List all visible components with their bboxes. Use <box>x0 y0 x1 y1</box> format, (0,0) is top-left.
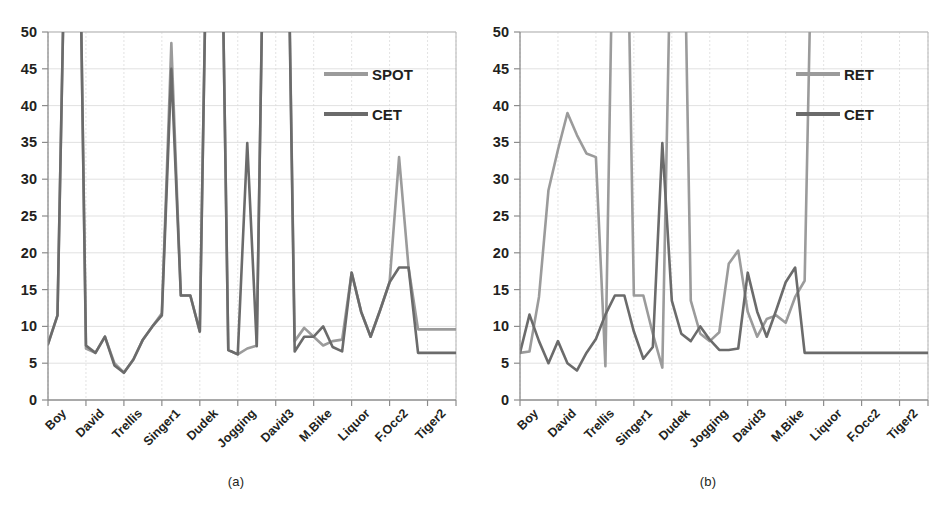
figure-two-panel-line-charts: 05101520253035404550BoyDavidTrellisSinge… <box>0 0 944 521</box>
x-axis-category-label: David <box>545 406 579 440</box>
plot-area-a: 05101520253035404550BoyDavidTrellisSinge… <box>0 0 472 521</box>
y-axis-tick-label: 35 <box>21 134 37 150</box>
y-axis-tick-label: 40 <box>493 98 509 114</box>
x-axis-category-label: M.Bike <box>768 406 806 444</box>
line-chart-b: 05101520253035404550BoyDavidTrellisSinge… <box>472 0 944 470</box>
plot-area-b: 05101520253035404550BoyDavidTrellisSinge… <box>472 0 944 521</box>
y-axis-tick-label: 25 <box>493 208 509 224</box>
y-axis-tick-label: 45 <box>21 61 37 77</box>
x-axis-category-label: Boy <box>514 406 541 433</box>
y-axis-tick-label: 45 <box>493 61 509 77</box>
y-axis-tick-label: 0 <box>29 392 37 408</box>
y-axis-tick-label: 50 <box>21 24 37 40</box>
x-axis-category-label: Dudek <box>184 406 221 443</box>
x-axis-category-label: Dudek <box>656 406 693 443</box>
x-axis-category-label: Liquor <box>807 406 844 443</box>
x-axis-category-label: Jogging <box>687 406 731 450</box>
panel-b: 05101520253035404550BoyDavidTrellisSinge… <box>472 0 944 521</box>
y-axis-tick-label: 10 <box>493 318 509 334</box>
x-axis-category-label: Tiger2 <box>412 406 448 442</box>
caption-b: (b) <box>472 474 944 489</box>
y-axis-tick-label: 25 <box>21 208 37 224</box>
legend-label-ret: RET <box>844 66 874 83</box>
x-axis-category-label: Singer1 <box>141 406 183 448</box>
x-axis-category-label: F.Occ2 <box>372 406 410 444</box>
y-axis-tick-label: 35 <box>493 134 509 150</box>
x-axis-category-label: Singer1 <box>613 406 655 448</box>
y-axis-tick-label: 50 <box>493 24 509 40</box>
x-axis-category-label: Trellis <box>110 406 145 441</box>
caption-a: (a) <box>0 474 472 489</box>
x-axis-category-label: David <box>73 406 107 440</box>
x-axis-category-label: David3 <box>258 406 297 445</box>
legend-label-spot: SPOT <box>372 66 413 83</box>
x-axis-category-label: David3 <box>730 406 769 445</box>
x-axis-category-label: Boy <box>42 406 69 433</box>
y-axis-tick-label: 15 <box>493 282 509 298</box>
y-axis-tick-label: 40 <box>21 98 37 114</box>
y-axis-tick-label: 30 <box>493 171 509 187</box>
legend-label-cet: CET <box>372 106 402 123</box>
y-axis-tick-label: 10 <box>21 318 37 334</box>
x-axis-category-label: Liquor <box>335 406 372 443</box>
y-axis-tick-label: 30 <box>21 171 37 187</box>
y-axis-tick-label: 5 <box>29 355 37 371</box>
legend-label-cet: CET <box>844 106 874 123</box>
x-axis-category-label: F.Occ2 <box>844 406 882 444</box>
x-axis-category-label: Tiger2 <box>884 406 920 442</box>
y-axis-tick-label: 0 <box>501 392 509 408</box>
y-axis-tick-label: 20 <box>21 245 37 261</box>
y-axis-tick-label: 15 <box>21 282 37 298</box>
y-axis-tick-label: 20 <box>493 245 509 261</box>
panel-a: 05101520253035404550BoyDavidTrellisSinge… <box>0 0 472 521</box>
x-axis-category-label: Jogging <box>215 406 259 450</box>
y-axis-tick-label: 5 <box>501 355 509 371</box>
x-axis-category-label: M.Bike <box>296 406 334 444</box>
x-axis-category-label: Trellis <box>582 406 617 441</box>
line-chart-a: 05101520253035404550BoyDavidTrellisSinge… <box>0 0 472 470</box>
